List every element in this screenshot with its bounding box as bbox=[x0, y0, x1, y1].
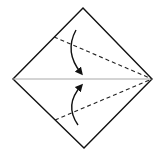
origami-diagram bbox=[0, 0, 161, 161]
paper-diamond-outline bbox=[13, 8, 152, 148]
